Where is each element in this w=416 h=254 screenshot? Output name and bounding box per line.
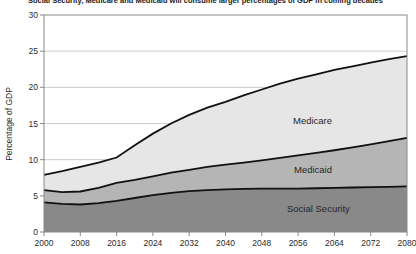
x-tick-label: 2000 <box>35 238 54 248</box>
x-tick-label: 2032 <box>180 238 199 248</box>
chart-figure: Social Security, Medicare and Medicaid w… <box>0 0 416 254</box>
y-tick-label: 20 <box>29 82 39 92</box>
y-tick-label: 30 <box>29 10 39 20</box>
x-tick-label: 2048 <box>252 238 271 248</box>
x-tick-label: 2056 <box>289 238 308 248</box>
medicare-area-label: Medicare <box>293 115 332 126</box>
stacked-area-chart-svg: 0510152025302000200820162024203220402048… <box>0 0 416 254</box>
y-tick-label: 5 <box>33 191 38 201</box>
y-tick-label: 10 <box>29 155 39 165</box>
social-security-area-label: Social Security <box>287 203 350 214</box>
x-tick-label: 2080 <box>398 238 416 248</box>
y-tick-label: 25 <box>29 46 39 56</box>
x-tick-label: 2040 <box>216 238 235 248</box>
x-tick-label: 2064 <box>325 238 344 248</box>
x-tick-label: 2016 <box>107 238 126 248</box>
x-tick-label: 2008 <box>71 238 90 248</box>
y-tick-label: 15 <box>29 119 39 129</box>
medicaid-area-label: Medicaid <box>294 164 332 175</box>
y-tick-label: 0 <box>33 227 38 237</box>
x-tick-label: 2024 <box>143 238 162 248</box>
x-tick-label: 2072 <box>361 238 380 248</box>
